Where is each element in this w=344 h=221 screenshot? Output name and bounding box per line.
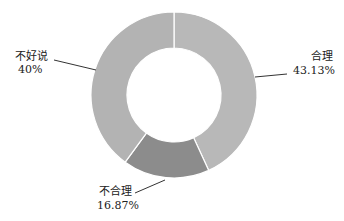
leader-line-buheli [135,180,165,193]
leader-line-buhaoshuo [54,60,96,70]
label-buheli-name: 不合理 [99,185,132,198]
donut-slice [91,12,174,162]
donut-chart [0,0,344,221]
label-heli-pct: 43.13% [293,64,335,77]
label-buhaoshuo-name: 不好说 [15,50,48,63]
label-heli-name: 合理 [311,50,333,63]
label-buhaoshuo-pct: 40% [18,63,42,76]
leader-line-heli [255,74,287,77]
label-buheli-pct: 16.87% [97,199,139,212]
